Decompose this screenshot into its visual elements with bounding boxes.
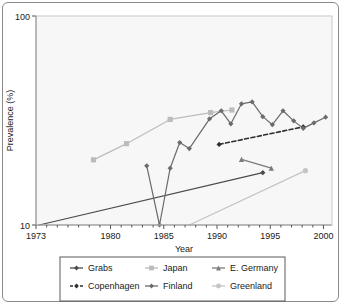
legend-label: Grabs <box>88 263 113 273</box>
plot-background <box>36 16 332 225</box>
data-point-marker <box>303 168 308 173</box>
x-axis-tick-label: 1990 <box>207 231 227 241</box>
x-axis-title: Year <box>175 244 193 254</box>
x-axis-tick-label: 2000 <box>313 231 333 241</box>
x-axis-tick-label: 1973 <box>26 231 46 241</box>
legend-label: Copenhagen <box>88 281 140 291</box>
legend-label: Japan <box>163 263 188 273</box>
data-point-marker <box>208 110 213 115</box>
prevalence-line-chart: 100 10 Prevalence (%) Year 1973198019851… <box>0 0 343 308</box>
legend-label: E. Germany <box>230 263 279 273</box>
x-axis-tick-label: 1980 <box>101 231 121 241</box>
y-axis-tick-top: 100 <box>15 12 30 22</box>
data-point-marker <box>168 117 173 122</box>
data-point-marker <box>91 157 96 162</box>
data-point-marker <box>149 266 154 271</box>
data-point-marker <box>124 141 129 146</box>
data-point-marker <box>216 284 221 289</box>
x-axis-tick-label: 1995 <box>260 231 280 241</box>
legend-label: Finland <box>163 281 193 291</box>
figure-container: 100 10 Prevalence (%) Year 1973198019851… <box>0 0 343 308</box>
data-point-marker <box>229 107 234 112</box>
x-axis-tick-label: 1985 <box>154 231 174 241</box>
x-axis-tick-labels: 197319801985199019952000 <box>26 231 334 241</box>
legend-label: Greenland <box>230 281 272 291</box>
y-axis-title: Prevalence (%) <box>5 90 15 152</box>
y-axis-tick-bottom: 10 <box>20 221 30 231</box>
